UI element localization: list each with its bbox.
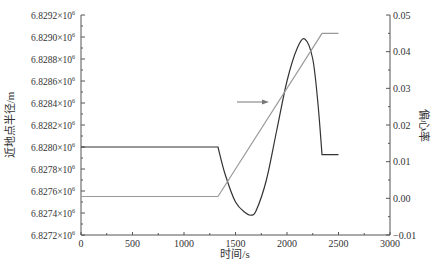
y-left-tick-label: 6.8286×106: [31, 76, 75, 87]
y-right-tick-label: 0.05: [393, 10, 411, 21]
x-axis-label: 时间/s: [220, 248, 249, 260]
y-left-tick-label: 6.8290×106: [31, 32, 75, 43]
x-tick-label: 1000: [174, 238, 194, 249]
y-left-tick-label: 6.8276×106: [31, 186, 75, 197]
chart: 0500100015002000250030006.8272×1066.8274…: [0, 0, 434, 265]
y-right-tick-label: 0.04: [393, 46, 411, 57]
y-left-tick-label: 6.8284×106: [31, 98, 75, 109]
series-lines: [81, 33, 339, 215]
x-tick-label: 0: [79, 238, 84, 249]
eccentricity-line: [81, 33, 339, 196]
x-tick-label: 2000: [277, 238, 297, 249]
y-right-tick-label: 0.01: [393, 156, 411, 167]
y-left-tick-label: 6.8272×106: [31, 230, 75, 241]
x-tick-label: 500: [125, 238, 140, 249]
y-left-tick-label: 6.8274×106: [31, 208, 75, 219]
perigee-radius-line: [81, 39, 339, 216]
y-left-tick-label: 6.8280×106: [31, 142, 75, 153]
y-right-tick-label: 0.00: [393, 193, 411, 204]
y-right-tick-label: −0.01: [393, 230, 416, 241]
y-left-tick-label: 6.8278×106: [31, 164, 75, 175]
y-left-axis-label: 近地点半径/m: [3, 91, 16, 158]
y-right-tick-label: 0.02: [393, 120, 411, 131]
annotation-arrow: [237, 100, 269, 105]
y-left-tick-label: 6.8288×106: [31, 54, 75, 65]
y-right-tick-label: 0.03: [393, 83, 411, 94]
y-left-tick-label: 6.8282×106: [31, 120, 75, 131]
x-tick-label: 2500: [329, 238, 349, 249]
axes: 0500100015002000250030006.8272×1066.8274…: [31, 10, 416, 250]
y-right-axis-label: 偏心率: [418, 109, 431, 142]
y-left-tick-label: 6.8292×106: [31, 10, 75, 21]
